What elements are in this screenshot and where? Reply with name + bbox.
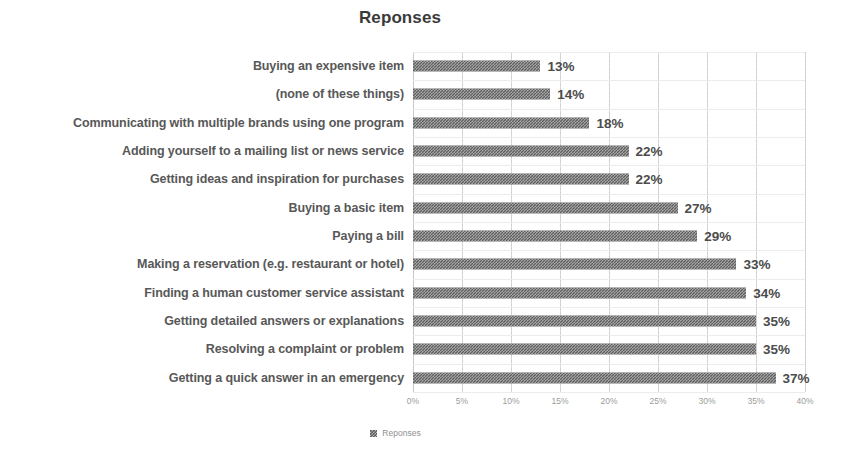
bar (413, 146, 629, 157)
bar (413, 372, 776, 383)
bar-row: Finding a human customer service assista… (413, 279, 805, 307)
x-tick-label: 10% (502, 396, 519, 406)
category-label: Buying a basic item (289, 201, 405, 215)
x-tick-label: 15% (551, 396, 568, 406)
bar-value-label: 37% (783, 370, 810, 385)
bar-value-label: 34% (753, 285, 780, 300)
chart-title: Reponses (0, 8, 800, 28)
bar (413, 287, 746, 298)
x-tick-label: 25% (649, 396, 666, 406)
x-tick-label: 35% (747, 396, 764, 406)
bar (413, 117, 589, 128)
bar-row: Communicating with multiple brands using… (413, 109, 805, 137)
bar-value-label: 18% (596, 115, 623, 130)
bar-row: Making a reservation (e.g. restaurant or… (413, 250, 805, 278)
bar-row: Getting detailed answers or explanations… (413, 307, 805, 335)
bar-row: Buying an expensive item13% (413, 52, 805, 80)
legend-swatch-icon (370, 430, 377, 437)
bar-value-label: 35% (763, 314, 790, 329)
x-axis-tick-labels: 0%5%10%15%20%25%30%35%40% (413, 396, 805, 412)
bar-value-label: 29% (704, 229, 731, 244)
x-tick-label: 5% (456, 396, 468, 406)
bar-value-label: 27% (685, 200, 712, 215)
category-label: Finding a human customer service assista… (144, 286, 404, 300)
row-separator (413, 392, 805, 393)
category-label: Paying a bill (332, 229, 404, 243)
x-tick-label: 20% (600, 396, 617, 406)
bar-row: Buying a basic item27% (413, 194, 805, 222)
bar-value-label: 22% (636, 144, 663, 159)
bar-row: (none of these things)14% (413, 80, 805, 108)
bar-row: Paying a bill29% (413, 222, 805, 250)
bar (413, 202, 678, 213)
bar (413, 344, 756, 355)
category-label: Buying an expensive item (253, 59, 404, 73)
bar (413, 231, 697, 242)
bar (413, 316, 756, 327)
legend-label: Reponses (382, 428, 420, 438)
category-label: (none of these things) (276, 87, 404, 101)
category-label: Getting detailed answers or explanations (164, 314, 404, 328)
gridline-40 (805, 52, 806, 392)
bar-value-label: 14% (557, 87, 584, 102)
category-label: Communicating with multiple brands using… (73, 116, 404, 130)
category-label: Making a reservation (e.g. restaurant or… (137, 257, 404, 271)
bar-row: Adding yourself to a mailing list or new… (413, 137, 805, 165)
category-label: Adding yourself to a mailing list or new… (122, 144, 404, 158)
category-label: Resolving a complaint or problem (206, 342, 404, 356)
bar-value-label: 22% (636, 172, 663, 187)
bar (413, 259, 736, 270)
bar (413, 61, 540, 72)
x-tick-label: 0% (407, 396, 419, 406)
bar-value-label: 33% (743, 257, 770, 272)
bar (413, 89, 550, 100)
bar (413, 174, 629, 185)
chart-legend: Reponses (0, 428, 851, 438)
x-tick-label: 30% (698, 396, 715, 406)
bar-value-label: 13% (547, 59, 574, 74)
category-label: Getting ideas and inspiration for purcha… (150, 172, 404, 186)
x-tick-label: 40% (796, 396, 813, 406)
bar-row: Getting a quick answer in an emergency37… (413, 364, 805, 392)
bar-value-label: 35% (763, 342, 790, 357)
plot-area: Buying an expensive item13%(none of thes… (413, 52, 805, 392)
category-label: Getting a quick answer in an emergency (169, 371, 404, 385)
bar-row: Getting ideas and inspiration for purcha… (413, 165, 805, 193)
bar-row: Resolving a complaint or problem35% (413, 335, 805, 363)
